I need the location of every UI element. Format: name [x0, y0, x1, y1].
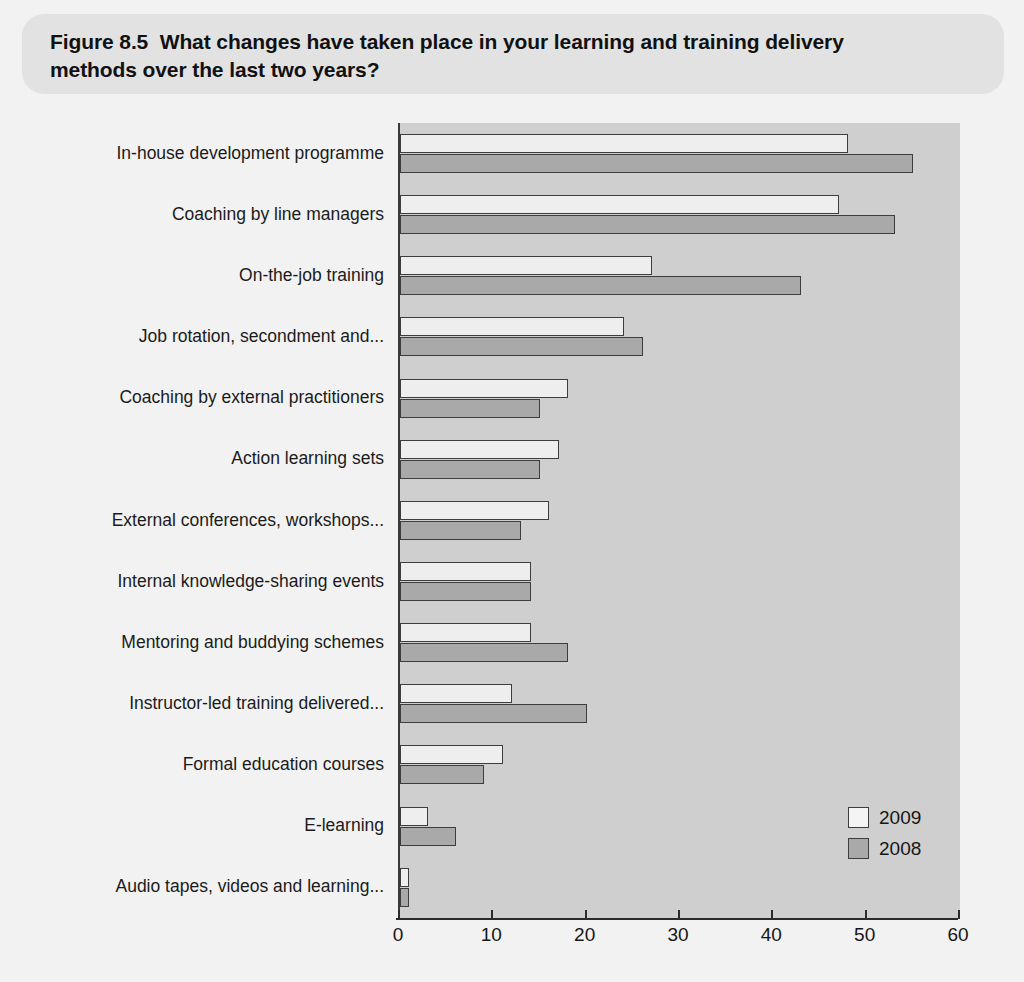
bar-2009 [400, 440, 559, 459]
category-label: Job rotation, secondment and... [139, 328, 384, 346]
bar-row [400, 368, 960, 429]
bar-2008 [400, 765, 484, 784]
bar-row [400, 551, 960, 612]
axis-tick [958, 910, 960, 919]
bar-row [400, 123, 960, 184]
category-label: Instructor-led training delivered... [129, 695, 384, 713]
axis-tick [585, 910, 587, 919]
bar-2009 [400, 195, 839, 214]
legend-swatch-icon [848, 838, 869, 859]
axis-tick [398, 910, 400, 919]
figure-page: Figure 8.5 What changes have taken place… [0, 0, 1024, 982]
bar-row [400, 306, 960, 367]
bar-2008 [400, 888, 409, 907]
figure-header-banner: Figure 8.5 What changes have taken place… [22, 14, 1004, 94]
category-label: In-house development programme [116, 145, 384, 163]
bar-row [400, 857, 960, 918]
bar-2009 [400, 317, 624, 336]
category-label: Mentoring and buddying schemes [121, 634, 384, 652]
bar-2008 [400, 521, 521, 540]
bar-chart: In-house development programmeCoaching b… [0, 100, 1024, 982]
axis-tick-label: 10 [481, 924, 502, 946]
bar-2009 [400, 807, 428, 826]
category-label: Audio tapes, videos and learning... [115, 878, 384, 896]
legend-swatch-icon [848, 807, 869, 828]
axis-tick [865, 910, 867, 919]
plot-area [398, 123, 960, 918]
axis-tick-label: 30 [667, 924, 688, 946]
bar-2008 [400, 704, 587, 723]
axis-tick-label: 50 [854, 924, 875, 946]
bar-2009 [400, 868, 409, 887]
category-label: Formal education courses [183, 756, 384, 774]
chart-legend: 20092008 [848, 802, 952, 864]
value-axis-line [396, 918, 958, 920]
category-axis: In-house development programmeCoaching b… [20, 123, 392, 918]
bar-rows [400, 123, 960, 918]
category-label: E-learning [304, 817, 384, 835]
category-label: Coaching by external practitioners [119, 389, 384, 407]
bar-2008 [400, 643, 568, 662]
bar-row [400, 429, 960, 490]
legend-label: 2008 [879, 839, 921, 858]
bar-2008 [400, 827, 456, 846]
bar-2008 [400, 276, 801, 295]
bar-2009 [400, 562, 531, 581]
bar-2008 [400, 582, 531, 601]
bar-2008 [400, 460, 540, 479]
bar-2008 [400, 154, 913, 173]
axis-tick [678, 910, 680, 919]
axis-tick-label: 60 [947, 924, 968, 946]
axis-tick-label: 0 [393, 924, 404, 946]
category-label: External conferences, workshops... [112, 512, 384, 530]
axis-tick-label: 20 [574, 924, 595, 946]
bar-row [400, 612, 960, 673]
axis-tick [491, 910, 493, 919]
bar-row [400, 734, 960, 795]
legend-item-2008: 2008 [848, 833, 952, 864]
bar-2009 [400, 623, 531, 642]
axis-tick-label: 40 [761, 924, 782, 946]
page-title: Figure 8.5 What changes have taken place… [50, 28, 978, 83]
bar-2009 [400, 379, 568, 398]
bar-row [400, 184, 960, 245]
category-label: On-the-job training [239, 267, 384, 285]
category-label: Action learning sets [231, 450, 384, 468]
bar-2009 [400, 684, 512, 703]
bar-2009 [400, 256, 652, 275]
bar-2008 [400, 337, 643, 356]
bar-2008 [400, 399, 540, 418]
category-label: Coaching by line managers [172, 206, 384, 224]
axis-tick [771, 910, 773, 919]
bar-2009 [400, 501, 549, 520]
bar-row [400, 245, 960, 306]
legend-item-2009: 2009 [848, 802, 952, 833]
category-label: Internal knowledge-sharing events [117, 573, 384, 591]
bar-2008 [400, 215, 895, 234]
bar-2009 [400, 745, 503, 764]
bar-2009 [400, 134, 848, 153]
bar-row [400, 673, 960, 734]
bar-row [400, 490, 960, 551]
legend-label: 2009 [879, 808, 921, 827]
